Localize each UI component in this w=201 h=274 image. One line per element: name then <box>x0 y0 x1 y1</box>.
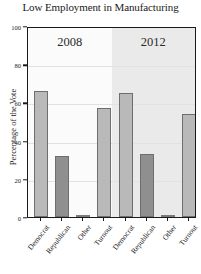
bar-2008-turnout <box>97 108 111 217</box>
y-tick-label-80: 80 <box>15 62 22 69</box>
bar-2008-other <box>76 215 90 217</box>
y-tick-label-60: 60 <box>15 100 22 107</box>
x-axis: Democrat Republican Other Turnout Democr… <box>27 218 196 274</box>
x-tick-mark-2008-democrat <box>40 218 41 221</box>
y-tick-label-20: 20 <box>15 176 22 183</box>
y-axis: Percentage of the Vote 100 80 60 40 20 0 <box>0 0 27 274</box>
gridline-60 <box>28 104 195 105</box>
bar-2008-republican <box>55 156 69 217</box>
bar-2012-other <box>161 215 175 217</box>
y-tick-label-40: 40 <box>15 138 22 145</box>
gridline-80 <box>28 66 195 67</box>
bar-2012-republican <box>140 154 154 217</box>
x-tick-label-2012-turnout: Turnout <box>177 223 199 247</box>
x-tick-label-2008-turnout: Turnout <box>92 223 114 247</box>
x-tick-mark-2008-other <box>82 218 83 221</box>
chart-figure: Low Employment in Manufacturing Percenta… <box>0 0 201 274</box>
bar-2012-turnout <box>182 114 196 217</box>
x-tick-label-2012-other: Other <box>160 223 178 242</box>
panel-label-2008: 2008 <box>28 35 112 50</box>
x-tick-mark-2008-republican <box>61 218 62 221</box>
y-tick-label-100: 100 <box>11 24 21 31</box>
x-tick-mark-2012-democrat <box>125 218 126 221</box>
plot-area: 2008 2012 <box>27 27 196 218</box>
x-tick-mark-2012-other <box>167 218 168 221</box>
y-tick-label-0: 0 <box>18 215 21 222</box>
x-tick-label-2008-other: Other <box>75 223 93 242</box>
y-axis-title: Percentage of the Vote <box>8 62 18 192</box>
x-tick-mark-2012-turnout <box>188 218 189 221</box>
chart-title: Low Employment in Manufacturing <box>0 1 201 13</box>
panel-label-2012: 2012 <box>112 35 196 50</box>
gridline-40 <box>28 143 195 144</box>
bar-2012-democrat <box>119 93 133 217</box>
bar-2008-democrat <box>34 91 48 217</box>
x-tick-mark-2012-republican <box>146 218 147 221</box>
gridline-20 <box>28 181 195 182</box>
x-tick-mark-2008-turnout <box>103 218 104 221</box>
